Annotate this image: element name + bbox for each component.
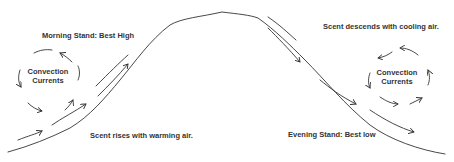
convection-left-line1: Convection [18,67,78,76]
scent-rises-label: Scent rises with warming air. [90,132,193,140]
descending-air-arrow [320,80,356,104]
evening-stand-label: Evening Stand: Best low [288,131,376,139]
rising-air-arrow [18,131,42,140]
scent-flow-diagram: Morning Stand: Best High Scent descends … [0,0,454,162]
descending-air-arrow [370,110,414,132]
convection-left-line2: Currents [18,76,78,85]
convection-right-line1: Convection [367,68,427,77]
convection-right-line2: Currents [367,77,427,86]
scent-descends-label: Scent descends with cooling air. [323,23,439,31]
rising-air-arrow [52,104,86,125]
descending-air-arrow [268,28,300,62]
morning-stand-label: Morning Stand: Best High [42,32,134,40]
convection-currents-right-label: Convection Currents [367,68,427,86]
convection-currents-left-label: Convection Currents [18,67,78,85]
descending-air-line [268,17,296,40]
